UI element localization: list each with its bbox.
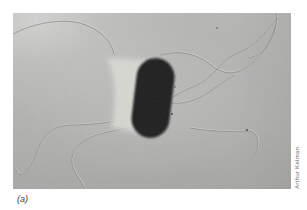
figure-panel: Arthur Kelman (a) <box>0 0 307 210</box>
micrograph-illustration <box>13 13 291 189</box>
film-grain-light <box>13 13 291 189</box>
photo-credit: Arthur Kelman <box>294 133 300 189</box>
micrograph-photo <box>13 13 291 189</box>
panel-label: (a) <box>17 194 28 204</box>
